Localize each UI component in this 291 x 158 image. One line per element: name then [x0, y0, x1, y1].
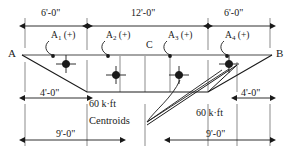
area-label-a2-symbol: A: [106, 30, 113, 40]
area-label-a4-sign: (+): [238, 30, 250, 40]
area-label-a3-symbol: A: [168, 30, 175, 40]
moment-diagram-figure: 6'-0" 12'-0" 6'-0" A B C A1 (+) A2 (+) A…: [0, 0, 291, 158]
area-label-a1: A1 (+): [51, 31, 75, 41]
diagram-canvas: [0, 0, 291, 158]
area-label-a1-symbol: A: [51, 30, 58, 40]
area-label-a4-subscript: 4: [232, 34, 236, 42]
dimension-label-top-middle: 12'-0": [131, 8, 155, 18]
diagonal-chord-lines: [147, 65, 237, 125]
area-label-a1-subscript: 1: [58, 34, 62, 42]
area-label-a3-subscript: 3: [175, 34, 179, 42]
area-label-a3-sign: (+): [181, 30, 193, 40]
dimension-label-bottom-left: 9'-0": [56, 129, 75, 139]
moment-value-right: 60 k·ft: [196, 108, 223, 118]
dimension-label-top-left: 6'-0": [41, 8, 60, 18]
node-label-a: A: [8, 48, 16, 59]
centroid-marker-1: [56, 55, 76, 73]
area-label-a1-sign: (+): [64, 30, 76, 40]
centroid-marker-2: [106, 66, 126, 84]
area-label-a2-subscript: 2: [113, 34, 117, 42]
node-label-c: C: [146, 40, 153, 50]
moment-area-outline: [22, 55, 272, 92]
moment-value-left: 60 k·ft: [89, 99, 116, 109]
dimension-label-mid-left: 4'-0": [40, 88, 59, 98]
centroids-label: Centroids: [89, 116, 130, 127]
area-label-a2-sign: (+): [119, 30, 131, 40]
node-label-b: B: [276, 48, 283, 59]
area-label-a2: A2 (+): [106, 31, 130, 41]
area-label-a4: A4 (+): [225, 31, 249, 41]
dimension-label-bottom-right: 9'-0": [206, 129, 225, 139]
area-label-a4-symbol: A: [225, 30, 232, 40]
dimension-label-mid-right: 4'-0": [241, 88, 260, 98]
dimension-label-top-right: 6'-0": [224, 8, 243, 18]
area-label-a3: A3 (+): [168, 31, 192, 41]
